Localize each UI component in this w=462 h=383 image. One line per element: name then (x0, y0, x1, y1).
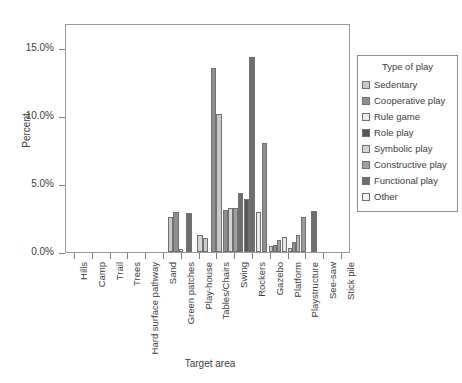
x-tick (127, 253, 128, 259)
legend-items: SedentaryCooperative playRule gameRole p… (362, 77, 453, 204)
bar-trees-rule-game (179, 249, 183, 252)
bar-tables-rule (277, 240, 282, 252)
legend-swatch-icon (362, 161, 370, 169)
legend-item: Sedentary (362, 77, 453, 92)
bar-sand-sedentary (216, 114, 222, 252)
legend-item: Other (362, 189, 453, 204)
x-tick-label: Stick pile (345, 262, 356, 300)
x-tick (252, 253, 253, 259)
x-tick (181, 253, 182, 259)
bar-playhouse-functional (262, 143, 268, 252)
x-tick (145, 253, 146, 259)
x-tick (163, 253, 164, 259)
x-tick-label: Platform (292, 262, 303, 297)
x-tick-label: Playstructure (309, 262, 320, 317)
legend-swatch-icon (362, 129, 370, 137)
legend-label: Sedentary (374, 79, 417, 90)
legend-item: Rule game (362, 109, 453, 124)
legend-swatch-icon (362, 81, 370, 89)
legend-item: Constructive play (362, 157, 453, 172)
legend: Type of play SedentaryCooperative playRu… (357, 55, 458, 212)
y-tick-label: 10.0% (4, 110, 54, 121)
plot-area (65, 24, 350, 253)
bar-hardsurface-sedentary (203, 238, 208, 252)
y-tick-label: 5.0% (4, 178, 54, 189)
bars-layer (66, 25, 349, 252)
legend-item: Role play (362, 125, 453, 140)
legend-label: Constructive play (374, 159, 447, 170)
y-tick-label: 0.0% (4, 246, 54, 257)
x-tick (305, 253, 306, 259)
x-tick-label: Camp (96, 262, 107, 287)
bar-greenpatch-functional (249, 57, 255, 252)
bar-swing-functional (301, 217, 306, 252)
x-tick (323, 253, 324, 259)
bar-sand-functional (238, 193, 243, 252)
legend-swatch-icon (362, 193, 370, 201)
x-tick (270, 253, 271, 259)
x-tick (341, 253, 342, 259)
legend-label: Rule game (374, 111, 420, 122)
x-tick-label: Sand (167, 262, 178, 284)
x-tick (110, 253, 111, 259)
x-tick (288, 253, 289, 259)
x-tick-label: Hills (78, 262, 89, 280)
y-axis-title: Percent (21, 81, 32, 181)
x-tick-label: Play-house (203, 262, 214, 310)
legend-item: Functional play (362, 173, 453, 188)
legend-item: Cooperative play (362, 93, 453, 108)
bar-rockers-functional (311, 211, 317, 252)
legend-swatch-icon (362, 177, 370, 185)
legend-swatch-icon (362, 145, 370, 153)
bar-trees-functional (186, 213, 192, 252)
legend-label: Other (374, 191, 398, 202)
legend-label: Symbolic play (374, 143, 433, 154)
x-tick (234, 253, 235, 259)
y-tick (59, 253, 65, 254)
legend-item: Symbolic play (362, 141, 453, 156)
x-tick (74, 253, 75, 259)
y-tick-label: 15.0% (4, 42, 54, 53)
bar-swing-misc (296, 235, 301, 252)
x-tick-label: Trail (114, 262, 125, 280)
x-tick-label: See-saw (327, 262, 338, 299)
x-tick-label: Hard surface pathway (149, 262, 160, 354)
x-tick-label: Tables/Chairs (220, 262, 231, 320)
legend-swatch-icon (362, 113, 370, 121)
x-tick (216, 253, 217, 259)
legend-title: Type of play (362, 61, 453, 72)
x-axis-title: Target area (65, 358, 355, 369)
x-tick-label: Gazebo (274, 262, 285, 295)
legend-label: Role play (374, 127, 414, 138)
chart-root: Percent 0.0%5.0%10.0%15.0% HillsCampTrai… (0, 0, 462, 383)
legend-label: Cooperative play (374, 95, 445, 106)
x-tick-label: Trees (131, 262, 142, 286)
x-tick-label: Rockers (256, 262, 267, 297)
legend-label: Functional play (374, 175, 438, 186)
x-tick (199, 253, 200, 259)
bar-greenpatch-rule (256, 212, 262, 252)
x-tick (92, 253, 93, 259)
x-tick-label: Green patches (185, 262, 196, 324)
bar-tables-other (282, 237, 287, 252)
legend-swatch-icon (362, 97, 370, 105)
x-tick-label: Swing (238, 262, 249, 288)
bar-trees-cooperative (173, 212, 179, 252)
